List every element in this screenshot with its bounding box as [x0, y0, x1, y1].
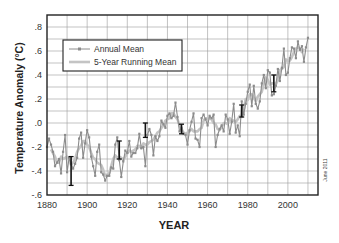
y-tick-label: .0	[34, 118, 42, 128]
annual-mean-point	[202, 114, 204, 116]
annual-mean-point	[170, 117, 172, 119]
annual-mean-point	[102, 174, 104, 176]
annual-mean-point	[247, 91, 249, 93]
annual-mean-point	[144, 165, 146, 167]
annual-mean-point	[293, 48, 295, 50]
annual-mean-point	[166, 115, 168, 117]
annual-mean-point	[196, 139, 198, 141]
annual-mean-point	[88, 136, 90, 138]
x-tick-label: 1960	[198, 200, 218, 210]
annual-mean-point	[104, 180, 106, 182]
x-tick-label: 1940	[157, 200, 177, 210]
annual-mean-point	[52, 151, 54, 153]
y-axis-title: Temperature Anomaly (°C)	[13, 42, 25, 173]
annual-mean-point	[239, 135, 241, 137]
annual-mean-point	[156, 140, 158, 142]
annual-mean-point	[126, 152, 128, 154]
annual-mean-point	[134, 152, 136, 154]
annual-mean-point	[237, 124, 239, 126]
annual-mean-point	[152, 154, 154, 156]
legend-running-label: 5-Year Running Mean	[94, 57, 177, 67]
annual-mean-point	[120, 176, 122, 178]
annual-mean-point	[78, 138, 80, 140]
annual-mean-point	[56, 162, 58, 164]
annual-mean-point	[186, 144, 188, 146]
annual-mean-point	[162, 123, 164, 125]
annual-mean-point	[172, 115, 174, 117]
annual-mean-point	[277, 68, 279, 70]
annual-mean-point	[148, 128, 150, 130]
annual-mean-point	[130, 156, 132, 158]
annual-mean-point	[273, 93, 275, 95]
annual-mean-point	[100, 171, 102, 173]
annual-mean-point	[174, 102, 176, 104]
y-tick-label: .8	[34, 22, 42, 32]
legend: Annual Mean 5-Year Running Mean	[63, 40, 182, 71]
annual-mean-point	[285, 74, 287, 76]
annual-mean-point	[271, 94, 273, 96]
annual-mean-point	[275, 85, 277, 87]
annual-mean-point	[211, 117, 213, 119]
annual-mean-point	[54, 165, 56, 167]
annual-mean-point	[281, 67, 283, 69]
y-tick-label: .6	[34, 46, 42, 56]
annual-mean-point	[76, 157, 78, 159]
annual-mean-point	[231, 121, 233, 123]
y-tick-label: .4	[34, 70, 42, 80]
annual-mean-point	[200, 117, 202, 119]
legend-annual-label: Annual Mean	[94, 44, 144, 54]
annual-mean-point	[257, 108, 259, 110]
annual-mean-point	[301, 45, 303, 47]
annual-mean-point	[192, 112, 194, 114]
annual-mean-point	[128, 140, 130, 142]
annual-mean-point	[287, 72, 289, 74]
annual-mean-point	[60, 172, 62, 174]
annual-mean-point	[267, 69, 269, 71]
annual-mean-point	[295, 57, 297, 59]
annual-mean-point	[96, 151, 98, 153]
x-tick-label: 1880	[37, 200, 57, 210]
x-tick-label: 1920	[117, 200, 137, 210]
annual-mean-point	[154, 135, 156, 137]
annual-mean-point	[176, 116, 178, 118]
annual-mean-point	[140, 147, 142, 149]
annual-mean-point	[146, 134, 148, 136]
annual-mean-point	[229, 133, 231, 135]
annual-mean-point	[50, 144, 52, 146]
annual-mean-point	[215, 146, 217, 148]
temperature-anomaly-chart: .8.6.4.2.0-.2-.4-.6 18801900192019401960…	[0, 0, 339, 243]
annual-mean-point	[227, 118, 229, 120]
annual-mean-point	[80, 132, 82, 134]
annual-mean-point	[221, 124, 223, 126]
y-tick-label: -.6	[31, 190, 42, 200]
annual-mean-point	[74, 163, 76, 165]
annual-mean-point	[64, 134, 66, 136]
annual-mean-point	[142, 146, 144, 148]
y-tick-label: -.4	[31, 166, 42, 176]
annual-mean-point	[160, 120, 162, 122]
annual-mean-point	[108, 175, 110, 177]
annual-mean-point	[279, 80, 281, 82]
annual-mean-point	[150, 134, 152, 136]
annual-mean-point	[136, 147, 138, 149]
annual-mean-point	[289, 57, 291, 59]
annual-mean-point	[204, 118, 206, 120]
annual-mean-point	[305, 46, 307, 48]
annual-mean-point	[66, 171, 68, 173]
x-tick-label: 1900	[77, 200, 97, 210]
annual-mean-point	[178, 130, 180, 132]
annual-mean-point	[158, 135, 160, 137]
annual-mean-point	[132, 152, 134, 154]
x-axis-title: YEAR	[159, 219, 190, 231]
annual-mean-point	[94, 175, 96, 177]
annual-mean-point	[233, 103, 235, 105]
annual-mean-point	[198, 146, 200, 148]
x-tick-label: 1980	[238, 200, 258, 210]
annual-mean-point	[303, 61, 305, 63]
annual-mean-point	[223, 130, 225, 132]
annual-mean-point	[206, 124, 208, 126]
annual-mean-point	[112, 168, 114, 170]
annual-mean-point	[283, 48, 285, 50]
annual-mean-point	[299, 49, 301, 51]
annual-mean-point	[269, 72, 271, 74]
